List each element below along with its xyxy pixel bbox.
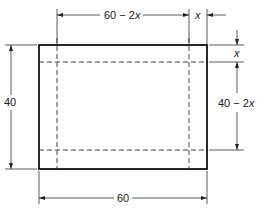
arrowhead-icon [235,39,239,45]
arrowhead-icon [201,196,207,200]
arrowhead-icon [235,62,239,68]
label-top-width: 60 − 2x [104,9,141,21]
label-outer-height: 40 [4,96,16,108]
label-inner-height: 40 − 2x [218,97,255,109]
arrowhead-icon [183,13,189,17]
dimension-corner-width [207,9,226,44]
arrowhead-icon [235,144,239,150]
arrowhead-icon [207,13,213,17]
arrowhead-icon [9,163,13,169]
label-outer-width: 60 [117,192,129,204]
arrowhead-icon [39,196,45,200]
box-diagram: 60 − 2x x x 40 − 2x 40 [0,0,257,211]
arrowhead-icon [9,45,13,51]
dimension-corner-height [235,30,239,45]
label-corner-height: x [233,47,240,59]
arrowhead-icon [57,13,63,17]
label-corner-width: x [194,9,201,21]
